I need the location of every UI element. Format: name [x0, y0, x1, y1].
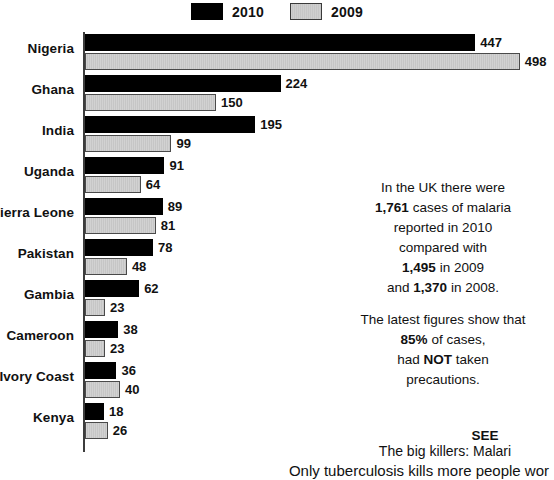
bar-2010-ghana[interactable]: [85, 75, 281, 92]
bar-2010-ivory-coast-value: 36: [121, 363, 135, 378]
precautions-line-3-pre: had: [397, 352, 423, 367]
bar-2010-india-value: 195: [260, 117, 282, 132]
category-label-ivory-coast: Ivory Coast: [0, 369, 74, 384]
footer-see-label: SEE: [410, 428, 554, 443]
bar-2010-ivory-coast[interactable]: [85, 362, 116, 379]
precautions-line-4: precautions.: [338, 370, 548, 390]
bar-2009-india-value: 99: [176, 136, 190, 151]
bar-2010-cameroon-value: 38: [123, 322, 137, 337]
bar-2010-pakistan-value: 78: [158, 240, 172, 255]
bar-2009-pakistan-value: 48: [132, 259, 146, 274]
legend-label-2009: 2009: [331, 4, 363, 20]
bar-2009-pakistan[interactable]: [85, 258, 127, 275]
category-label-nigeria: Nigeria: [0, 41, 74, 56]
legend-entry-2009: 2009: [290, 3, 363, 20]
note-line-2: 1,761 cases of malaria: [338, 198, 548, 218]
legend-swatch-black-icon: [191, 3, 223, 20]
uk-cases-note: In the UK there were 1,761 cases of mala…: [338, 178, 548, 298]
bar-2010-uganda-value: 91: [169, 158, 183, 173]
bar-2009-uganda-value: 64: [146, 177, 160, 192]
note-line-6-rest: in 2008.: [447, 280, 499, 295]
note-line-5-value: 1,495: [402, 260, 436, 275]
chart-row: Ghana224150: [0, 73, 554, 114]
note-line-6: and 1,370 in 2008.: [338, 278, 548, 298]
precautions-line-2: 85% of cases,: [338, 330, 548, 350]
note-line-3: reported in 2010: [338, 218, 548, 238]
bar-2010-cameroon[interactable]: [85, 321, 118, 338]
bar-2009-kenya[interactable]: [85, 422, 108, 439]
footer-teaser: SEE The big killers: Malari Only tubercu…: [260, 428, 554, 479]
bar-2009-cameroon[interactable]: [85, 340, 105, 357]
bar-2010-pakistan[interactable]: [85, 239, 153, 256]
bar-2009-cameroon-value: 23: [110, 341, 124, 356]
note-line-1: In the UK there were: [338, 178, 548, 198]
footer-headline[interactable]: The big killers: Malari: [330, 443, 554, 459]
category-label-kenya: Kenya: [0, 410, 74, 425]
bar-2010-sierra-leone[interactable]: [85, 198, 163, 215]
bar-2009-sierra-leone[interactable]: [85, 217, 156, 234]
legend-label-2010: 2010: [232, 4, 264, 20]
bar-2010-india[interactable]: [85, 116, 255, 133]
note-line-5-rest: in 2009: [436, 260, 484, 275]
bar-2009-gambia-value: 23: [110, 300, 124, 315]
bar-2010-gambia[interactable]: [85, 280, 139, 297]
category-label-pakistan: Pakistan: [0, 246, 74, 261]
precautions-line-2-rest: of cases,: [428, 332, 486, 347]
precautions-line-1: The latest figures show that: [338, 310, 548, 330]
category-label-india: India: [0, 123, 74, 138]
bar-2010-sierra-leone-value: 89: [168, 199, 182, 214]
note-line-2-value: 1,761: [375, 200, 409, 215]
note-line-2-rest: cases of malaria: [409, 200, 511, 215]
note-line-6-pre: and: [387, 280, 413, 295]
bar-2010-gambia-value: 62: [144, 281, 158, 296]
chart-legend: 2010 2009: [0, 3, 554, 20]
bar-2010-nigeria-value: 447: [480, 35, 502, 50]
bar-2009-sierra-leone-value: 81: [161, 218, 175, 233]
bar-2009-ivory-coast-value: 40: [125, 382, 139, 397]
precautions-percent: 85%: [401, 332, 428, 347]
bar-2010-ghana-value: 224: [286, 76, 308, 91]
category-label-gambia: Gambia: [0, 287, 74, 302]
chart-row: India19599: [0, 114, 554, 155]
bar-2009-ghana-value: 150: [221, 95, 243, 110]
bar-2009-nigeria[interactable]: [85, 53, 520, 70]
bar-2010-kenya-value: 18: [109, 404, 123, 419]
legend-entry-2010: 2010: [191, 3, 264, 20]
bar-2009-ivory-coast[interactable]: [85, 381, 120, 398]
bar-2010-nigeria[interactable]: [85, 34, 475, 51]
footer-body-text: Only tuberculosis kills more people wor: [278, 462, 554, 479]
note-line-4: compared with: [338, 238, 548, 258]
category-label-uganda: Uganda: [0, 164, 74, 179]
bar-2009-india[interactable]: [85, 135, 171, 152]
note-line-6-value: 1,370: [413, 280, 447, 295]
legend-swatch-gray-icon: [290, 3, 322, 20]
category-label-cameroon: Cameroon: [0, 328, 74, 343]
precautions-line-3: had NOT taken: [338, 350, 548, 370]
precautions-note: The latest figures show that 85% of case…: [338, 310, 548, 390]
bar-2009-gambia[interactable]: [85, 299, 105, 316]
category-label-sierra-leone: Sierra Leone: [0, 205, 74, 220]
precautions-not: NOT: [424, 352, 453, 367]
bar-2009-ghana[interactable]: [85, 94, 216, 111]
chart-row: Nigeria447498: [0, 32, 554, 73]
category-label-ghana: Ghana: [0, 82, 74, 97]
note-line-5: 1,495 in 2009: [338, 258, 548, 278]
bar-2009-uganda[interactable]: [85, 176, 141, 193]
precautions-line-3-rest: taken: [452, 352, 489, 367]
bar-2009-nigeria-value: 498: [525, 54, 547, 69]
bar-2010-kenya[interactable]: [85, 403, 104, 420]
bar-2010-uganda[interactable]: [85, 157, 164, 174]
bar-2009-kenya-value: 26: [113, 423, 127, 438]
